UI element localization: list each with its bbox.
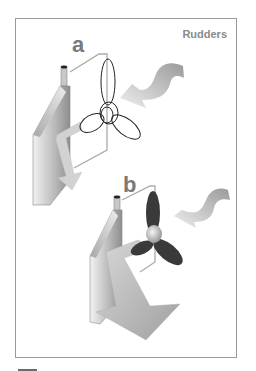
flow-arrow-incoming-a [120,63,184,108]
flow-arrow-incoming-b [174,188,230,228]
rudders-illustration [0,0,256,371]
panel-a-diagram [33,54,184,205]
propeller-b [129,191,187,270]
panel-b-diagram [90,186,230,340]
rudder-stock-a [61,66,67,86]
